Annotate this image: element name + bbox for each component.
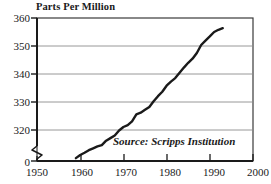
gridlines bbox=[37, 46, 253, 130]
y-axis bbox=[32, 18, 42, 161]
chart-figure: Parts Per Million 360 350 340 330 320 0 … bbox=[0, 0, 271, 184]
co2-trend-line bbox=[76, 28, 223, 158]
plot-frame bbox=[37, 18, 253, 161]
plot-area bbox=[0, 0, 271, 184]
x-tick-marks bbox=[37, 154, 253, 161]
